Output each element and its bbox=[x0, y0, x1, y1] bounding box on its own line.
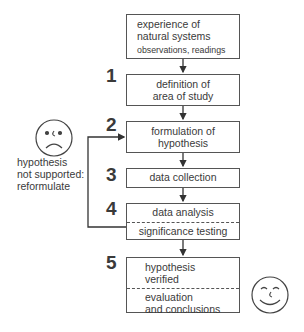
feedback-label: hypothesis not supported: reformulate bbox=[17, 156, 84, 192]
step-5: 5 bbox=[106, 252, 117, 274]
box-definition: definition of area of study bbox=[126, 74, 240, 106]
box-experience: experience of natural systems observatio… bbox=[126, 14, 240, 59]
box-data-analysis: data analysis significance testing bbox=[126, 203, 240, 240]
happy-face-icon bbox=[252, 277, 288, 313]
box-conclusions: hypothesis verified evaluation and concl… bbox=[126, 257, 240, 313]
step-4: 4 bbox=[106, 198, 117, 220]
step-1: 1 bbox=[106, 65, 117, 87]
step-3: 3 bbox=[106, 164, 117, 186]
box-data-collection: data collection bbox=[126, 168, 240, 188]
sad-face-icon bbox=[36, 120, 72, 156]
step-2: 2 bbox=[106, 114, 117, 136]
box-formulation: formulation of hypothesis bbox=[126, 121, 240, 153]
